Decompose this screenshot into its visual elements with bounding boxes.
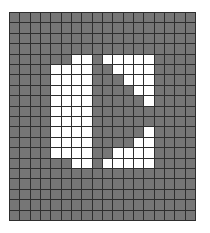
grid-cell[interactable] [165,34,174,43]
grid-cell[interactable] [82,190,91,199]
grid-cell[interactable] [31,65,40,74]
grid-cell[interactable] [93,34,102,43]
grid-cell[interactable] [10,148,19,157]
grid-cell[interactable] [134,65,143,74]
grid-cell[interactable] [144,211,153,220]
grid-cell[interactable] [20,117,29,126]
grid-cell[interactable] [51,159,60,168]
grid-cell[interactable] [72,159,81,168]
grid-cell[interactable] [82,96,91,105]
grid-cell[interactable] [10,127,19,136]
grid-cell[interactable] [103,107,112,116]
grid-cell[interactable] [113,200,122,209]
grid-cell[interactable] [93,200,102,209]
grid-cell[interactable] [82,117,91,126]
grid-cell[interactable] [186,148,195,157]
grid-cell[interactable] [20,200,29,209]
grid-cell[interactable] [51,55,60,64]
grid-cell[interactable] [124,179,133,188]
grid-cell[interactable] [165,44,174,53]
grid-cell[interactable] [10,13,19,22]
grid-cell[interactable] [51,86,60,95]
grid-cell[interactable] [93,179,102,188]
grid-cell[interactable] [41,159,50,168]
grid-cell[interactable] [41,96,50,105]
grid-cell[interactable] [186,107,195,116]
grid-cell[interactable] [155,200,164,209]
grid-cell[interactable] [31,107,40,116]
grid-cell[interactable] [103,34,112,43]
grid-cell[interactable] [165,200,174,209]
grid-cell[interactable] [72,190,81,199]
grid-cell[interactable] [31,96,40,105]
grid-cell[interactable] [10,55,19,64]
grid-cell[interactable] [165,75,174,84]
grid-cell[interactable] [134,55,143,64]
grid-cell[interactable] [124,44,133,53]
grid-cell[interactable] [62,34,71,43]
grid-cell[interactable] [175,211,184,220]
grid-cell[interactable] [113,65,122,74]
grid-cell[interactable] [31,86,40,95]
grid-cell[interactable] [124,169,133,178]
grid-cell[interactable] [155,96,164,105]
grid-cell[interactable] [155,13,164,22]
grid-cell[interactable] [124,107,133,116]
grid-cell[interactable] [124,127,133,136]
grid-cell[interactable] [93,13,102,22]
grid-cell[interactable] [41,86,50,95]
grid-cell[interactable] [41,200,50,209]
grid-cell[interactable] [10,159,19,168]
grid-cell[interactable] [93,75,102,84]
grid-cell[interactable] [165,117,174,126]
grid-cell[interactable] [62,13,71,22]
grid-cell[interactable] [165,23,174,32]
grid-cell[interactable] [82,86,91,95]
grid-cell[interactable] [155,127,164,136]
grid-cell[interactable] [51,75,60,84]
grid-cell[interactable] [31,190,40,199]
grid-cell[interactable] [41,138,50,147]
grid-cell[interactable] [165,127,174,136]
grid-cell[interactable] [155,138,164,147]
grid-cell[interactable] [175,117,184,126]
grid-cell[interactable] [51,65,60,74]
grid-cell[interactable] [134,34,143,43]
grid-cell[interactable] [175,138,184,147]
grid-cell[interactable] [175,148,184,157]
grid-cell[interactable] [31,75,40,84]
grid-cell[interactable] [82,107,91,116]
grid-cell[interactable] [175,75,184,84]
grid-cell[interactable] [165,13,174,22]
grid-cell[interactable] [82,169,91,178]
grid-cell[interactable] [165,96,174,105]
grid-cell[interactable] [175,107,184,116]
grid-cell[interactable] [155,169,164,178]
grid-cell[interactable] [51,34,60,43]
grid-cell[interactable] [72,75,81,84]
grid-cell[interactable] [93,138,102,147]
grid-cell[interactable] [51,23,60,32]
grid-cell[interactable] [124,13,133,22]
grid-cell[interactable] [124,23,133,32]
grid-cell[interactable] [144,117,153,126]
grid-cell[interactable] [82,179,91,188]
grid-cell[interactable] [51,190,60,199]
grid-cell[interactable] [20,13,29,22]
grid-cell[interactable] [186,159,195,168]
grid-cell[interactable] [72,96,81,105]
grid-cell[interactable] [134,190,143,199]
grid-cell[interactable] [113,148,122,157]
grid-cell[interactable] [175,55,184,64]
grid-cell[interactable] [165,138,174,147]
grid-cell[interactable] [62,211,71,220]
grid-cell[interactable] [72,86,81,95]
grid-cell[interactable] [144,107,153,116]
grid-cell[interactable] [165,65,174,74]
grid-cell[interactable] [82,211,91,220]
grid-cell[interactable] [186,96,195,105]
grid-cell[interactable] [165,190,174,199]
grid-cell[interactable] [62,169,71,178]
grid-cell[interactable] [113,96,122,105]
grid-cell[interactable] [175,86,184,95]
